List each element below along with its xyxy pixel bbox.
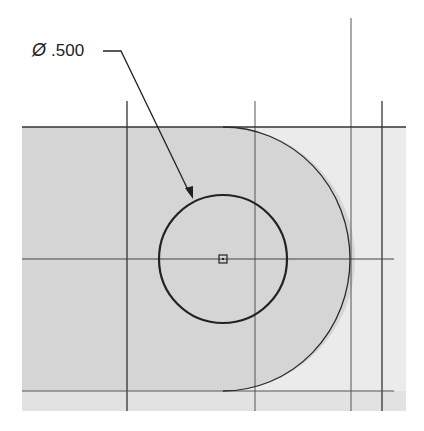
sketch-drawing: [0, 0, 424, 431]
diameter-value: .500: [51, 41, 84, 60]
diameter-dimension[interactable]: Ø.500: [32, 40, 84, 61]
sketch-canvas[interactable]: Ø.500: [0, 0, 424, 431]
diameter-symbol: Ø: [32, 40, 46, 60]
lower-strip: [22, 391, 406, 411]
